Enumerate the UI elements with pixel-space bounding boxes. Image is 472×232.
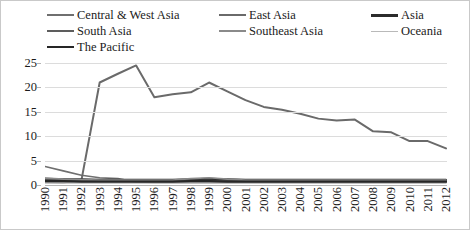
legend-swatch-icon xyxy=(47,46,74,48)
plot-area xyxy=(45,63,447,185)
legend-swatch-icon xyxy=(371,14,398,17)
x-axis-tick-label: 1990 xyxy=(39,187,52,212)
y-axis-tick-mark xyxy=(37,63,41,64)
legend-swatch-icon xyxy=(47,14,74,16)
x-axis: 1990199119921993199419951996199719981999… xyxy=(45,187,447,231)
gridline xyxy=(45,136,447,137)
legend-item: South Asia xyxy=(47,23,219,39)
legend-swatch-icon xyxy=(47,30,74,32)
legend-swatch-icon xyxy=(219,14,246,16)
x-axis-tick-label: 2002 xyxy=(258,187,271,212)
x-axis-tick-label: 2008 xyxy=(367,187,380,212)
x-axis-tick-label: 2003 xyxy=(276,187,289,212)
x-axis-line xyxy=(45,185,447,186)
x-axis-tick-label: 2007 xyxy=(349,187,362,212)
series-line xyxy=(45,65,446,182)
y-axis-tick-mark xyxy=(37,136,41,137)
legend-item: The Pacific xyxy=(47,39,219,55)
x-axis-tick-label: 2001 xyxy=(240,187,253,212)
legend-item: Central & West Asia xyxy=(47,7,219,23)
legend-item: East Asia xyxy=(219,7,371,23)
x-axis-tick-label: 1998 xyxy=(185,187,198,212)
chart-legend: Central & West AsiaEast AsiaAsiaSouth As… xyxy=(47,7,457,55)
gridline xyxy=(45,87,447,88)
gridline xyxy=(45,63,447,64)
y-axis-tick-mark xyxy=(37,87,41,88)
legend-item: Southeast Asia xyxy=(219,23,371,39)
legend-item: Oceania xyxy=(371,23,457,39)
legend-item-label: East Asia xyxy=(249,7,296,23)
series-lines xyxy=(45,63,447,185)
legend-item-label: Asia xyxy=(401,7,424,23)
gridline xyxy=(45,112,447,113)
x-axis-tick-label: 1991 xyxy=(57,187,70,212)
legend-item-label: South Asia xyxy=(77,23,132,39)
x-axis-tick-label: 2009 xyxy=(385,187,398,212)
legend-swatch-icon xyxy=(219,30,246,32)
x-axis-tick-label: 2005 xyxy=(312,187,325,212)
legend-item-label: Southeast Asia xyxy=(249,23,323,39)
y-axis-tick-label: 15 xyxy=(25,106,38,119)
x-axis-tick-label: 1995 xyxy=(130,187,143,212)
y-axis-tick-mark xyxy=(37,161,41,162)
x-axis-tick-label: 2004 xyxy=(294,187,307,212)
y-axis-tick-label: 20 xyxy=(25,81,38,94)
y-axis-tick-label: 10 xyxy=(25,130,38,143)
y-axis-tick-label: 25 xyxy=(25,57,38,70)
x-axis-tick-label: 1994 xyxy=(112,187,125,212)
legend-item-label: The Pacific xyxy=(77,39,134,55)
x-axis-tick-label: 2000 xyxy=(221,187,234,212)
x-axis-tick-label: 1993 xyxy=(94,187,107,212)
gridline xyxy=(45,161,447,162)
x-axis-tick-label: 1999 xyxy=(203,187,216,212)
x-axis-tick-label: 2010 xyxy=(404,187,417,212)
y-axis-tick-mark xyxy=(37,185,41,186)
x-axis-tick-label: 2012 xyxy=(440,187,453,212)
x-axis-tick-label: 1997 xyxy=(167,187,180,212)
y-axis: 0510152025 xyxy=(1,63,41,185)
x-axis-tick-label: 2011 xyxy=(422,187,435,212)
legend-item-label: Central & West Asia xyxy=(77,7,180,23)
x-axis-tick-label: 1992 xyxy=(75,187,88,212)
y-axis-tick-mark xyxy=(37,112,41,113)
legend-item: Asia xyxy=(371,7,457,23)
legend-item-label: Oceania xyxy=(401,23,442,39)
x-axis-tick-label: 1996 xyxy=(148,187,161,212)
chart-figure: Central & West AsiaEast AsiaAsiaSouth As… xyxy=(0,0,470,230)
x-axis-tick-label: 2006 xyxy=(331,187,344,212)
legend-swatch-icon xyxy=(371,31,398,32)
